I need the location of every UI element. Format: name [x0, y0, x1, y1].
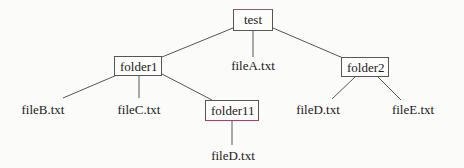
node-folder-folder2: folder2 — [341, 57, 389, 77]
edge-test-folder2 — [273, 28, 343, 58]
node-folder-test: test — [233, 9, 273, 31]
node-file-fileA: fileA.txt — [231, 59, 275, 72]
node-file-fileD-in-folder11: fileD.txt — [211, 149, 255, 162]
directory-tree-diagram: test folder1 fileA.txt folder2 fileB.txt… — [0, 0, 464, 168]
edge-folder2-fileE — [378, 77, 401, 100]
edge-folder2-fileD — [332, 77, 355, 99]
edge-test-folder1 — [162, 28, 233, 57]
node-file-fileB: fileB.txt — [22, 103, 65, 116]
node-file-fileE: fileE.txt — [392, 103, 434, 116]
tree-edges — [0, 0, 464, 168]
edge-folder1-folder11 — [162, 74, 212, 100]
node-folder-folder1: folder1 — [114, 56, 162, 76]
node-file-fileC: fileC.txt — [118, 103, 161, 116]
edge-folder1-fileB — [63, 75, 117, 98]
node-folder-folder11: folder11 — [205, 100, 259, 121]
node-file-fileD-in-folder2: fileD.txt — [296, 103, 340, 116]
